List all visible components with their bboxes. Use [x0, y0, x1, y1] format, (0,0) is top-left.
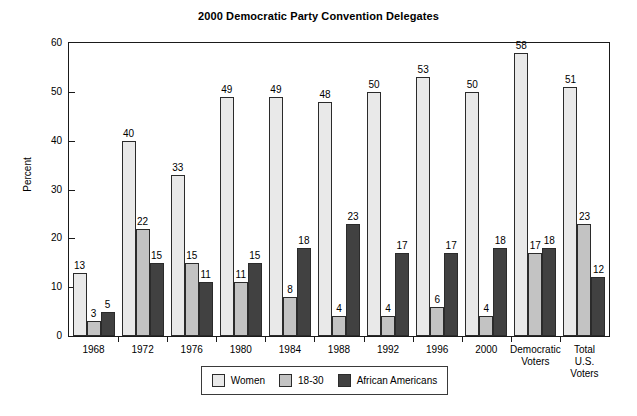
y-axis-tick-label: 0 — [32, 331, 62, 341]
bar[interactable] — [150, 263, 164, 336]
bar[interactable] — [136, 229, 150, 336]
bar[interactable] — [101, 312, 115, 336]
bar-value-label: 50 — [362, 80, 386, 90]
bar-value-label: 15 — [145, 251, 169, 261]
bar[interactable] — [318, 102, 332, 336]
bar-group: 50418 — [465, 43, 507, 336]
bar-value-label: 11 — [194, 270, 218, 280]
bar-value-label: 40 — [117, 129, 141, 139]
bar[interactable] — [493, 248, 507, 336]
bar[interactable] — [444, 253, 458, 336]
bar-value-label: 18 — [292, 236, 316, 246]
bar[interactable] — [297, 248, 311, 336]
bar-value-label: 12 — [586, 265, 610, 275]
bar[interactable] — [591, 277, 605, 336]
bar-group: 53617 — [416, 43, 458, 336]
y-axis-tick-label: 40 — [32, 136, 62, 146]
bar[interactable] — [332, 316, 346, 336]
x-axis-tick — [118, 337, 119, 342]
bar[interactable] — [395, 253, 409, 336]
legend-swatch-icon — [212, 374, 225, 387]
bar[interactable] — [577, 224, 591, 336]
x-axis-tick — [216, 337, 217, 342]
y-axis-tick-label: 10 — [32, 282, 62, 292]
bar-group: 491115 — [220, 43, 262, 336]
bar-group: 581718 — [514, 43, 556, 336]
legend-label: African Americans — [357, 376, 438, 386]
bar[interactable] — [346, 224, 360, 336]
bar[interactable] — [234, 282, 248, 336]
bar-value-label: 33 — [166, 163, 190, 173]
bar-value-label: 15 — [180, 251, 204, 261]
bar-group: 49818 — [269, 43, 311, 336]
bar-value-label: 53 — [411, 65, 435, 75]
bar[interactable] — [220, 97, 234, 336]
bar[interactable] — [122, 141, 136, 336]
bar[interactable] — [367, 92, 381, 336]
bar-value-label: 49 — [264, 85, 288, 95]
y-axis-tick-label: 20 — [32, 233, 62, 243]
bar-value-label: 5 — [96, 300, 120, 310]
x-axis-label: Total U.S. Voters — [552, 344, 617, 380]
chart-title: 2000 Democratic Party Convention Delegat… — [0, 10, 637, 22]
bar-value-label: 13 — [68, 261, 92, 271]
legend-entry[interactable]: African Americans — [338, 374, 438, 387]
bar-value-label: 17 — [439, 241, 463, 251]
bar-group: 331511 — [171, 43, 213, 336]
bar-group: 48423 — [318, 43, 360, 336]
x-axis-tick — [462, 337, 463, 342]
legend-label: Women — [231, 376, 265, 386]
bar[interactable] — [283, 297, 297, 336]
y-axis-tick-label: 50 — [32, 87, 62, 97]
bar-value-label: 17 — [390, 241, 414, 251]
chart-legend: Women18-30African Americans — [201, 366, 448, 395]
bar[interactable] — [479, 316, 493, 336]
bar-value-label: 18 — [537, 236, 561, 246]
legend-swatch-icon — [279, 374, 292, 387]
plot-area: 1335402215331511491115498184842350417536… — [69, 43, 609, 336]
x-axis-tick — [265, 337, 266, 342]
bar-group: 1335 — [73, 43, 115, 336]
bar-group: 50417 — [367, 43, 409, 336]
bar-value-label: 23 — [572, 212, 596, 222]
x-axis-tick — [511, 337, 512, 342]
bar[interactable] — [73, 273, 87, 336]
y-axis-tick-label: 60 — [32, 38, 62, 48]
bar-value-label: 51 — [558, 75, 582, 85]
y-axis-tick-label: 30 — [32, 185, 62, 195]
x-axis-tick — [560, 337, 561, 342]
bar[interactable] — [269, 97, 283, 336]
bar-value-label: 49 — [215, 85, 239, 95]
bar[interactable] — [528, 253, 542, 336]
legend-entry[interactable]: 18-30 — [279, 374, 324, 387]
chart-container: 2000 Democratic Party Convention Delegat… — [0, 0, 637, 416]
bar-value-label: 18 — [488, 236, 512, 246]
legend-label: 18-30 — [298, 376, 324, 386]
legend-entry[interactable]: Women — [212, 374, 265, 387]
bar[interactable] — [381, 316, 395, 336]
bar-value-label: 58 — [509, 41, 533, 51]
x-axis-tick — [364, 337, 365, 342]
x-axis-tick — [167, 337, 168, 342]
bar-group: 512312 — [563, 43, 605, 336]
bar[interactable] — [248, 263, 262, 336]
bar[interactable] — [542, 248, 556, 336]
bar-value-label: 23 — [341, 212, 365, 222]
bar-value-label: 22 — [131, 217, 155, 227]
x-axis-tick — [314, 337, 315, 342]
y-axis-title: Percent — [22, 135, 33, 215]
x-axis-tick — [413, 337, 414, 342]
bar[interactable] — [430, 307, 444, 336]
bar[interactable] — [87, 321, 101, 336]
bar-value-label: 15 — [243, 251, 267, 261]
bar-value-label: 48 — [313, 90, 337, 100]
bar[interactable] — [199, 282, 213, 336]
bar[interactable] — [465, 92, 479, 336]
bar-value-label: 50 — [460, 80, 484, 90]
bar[interactable] — [514, 53, 528, 336]
legend-swatch-icon — [338, 374, 351, 387]
bar-group: 402215 — [122, 43, 164, 336]
